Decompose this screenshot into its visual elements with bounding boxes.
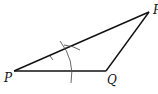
label-P: P — [3, 71, 13, 85]
vertex-labels: P Q R — [3, 3, 158, 87]
construction-arc-large — [60, 41, 72, 83]
arc-tick — [50, 56, 53, 60]
construction-arcs — [50, 41, 80, 83]
label-Q: Q — [107, 73, 117, 87]
edge-PR — [14, 12, 149, 71]
label-R: R — [152, 3, 158, 17]
triangle-edges — [14, 12, 149, 71]
triangle-diagram: P Q R — [0, 0, 158, 94]
